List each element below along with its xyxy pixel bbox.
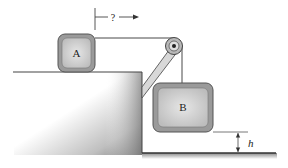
displacement-arrowhead-icon [133, 15, 139, 20]
height-label: h [248, 137, 254, 149]
pulley [166, 38, 183, 55]
block-a-label: A [73, 47, 81, 59]
block-b: B [153, 83, 213, 132]
table [13, 72, 142, 160]
pulley-axle [172, 44, 176, 48]
displacement-label: ? [111, 12, 116, 23]
floor-shadow [142, 153, 277, 159]
block-b-label: B [179, 101, 186, 113]
floor [142, 153, 277, 159]
block-a: A [58, 34, 95, 72]
pulley-diagram: A B ? h [0, 0, 288, 168]
displacement-marker: ? [95, 8, 139, 30]
height-arrowhead-up-icon [236, 133, 240, 138]
height-marker: h [213, 132, 254, 152]
height-arrowhead-down-icon [236, 148, 240, 153]
